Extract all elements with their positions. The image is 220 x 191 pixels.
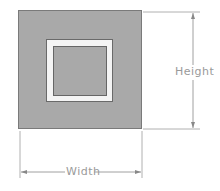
arrow-right-icon	[135, 170, 141, 174]
arrow-down-icon	[191, 122, 195, 128]
arrow-left-icon	[21, 170, 27, 174]
height-label: Height	[175, 65, 214, 78]
dimension-lines	[0, 0, 220, 191]
arrow-up-icon	[191, 13, 195, 19]
width-label: Width	[66, 165, 100, 178]
